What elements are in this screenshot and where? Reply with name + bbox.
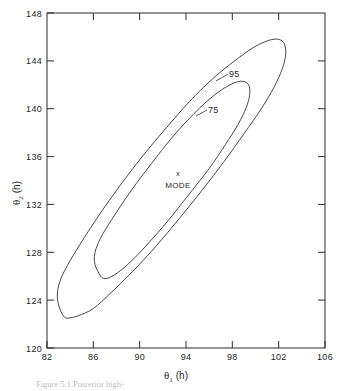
figure-caption-strip: Figure 5.1 Posterior high- [0, 381, 348, 391]
y-axis-ticks-right [318, 61, 325, 300]
y-axis-title-subscript: 2 [17, 196, 25, 200]
mode-marker-x: x [176, 170, 180, 177]
y-tick-label: 140 [26, 104, 42, 114]
x-tick-labels: 82 86 90 94 98 102 106 [42, 352, 333, 362]
y-tick-label: 144 [26, 56, 42, 66]
y-tick-labels: 120 124 128 132 136 140 144 148 [26, 9, 42, 354]
figure-container: 82 86 90 94 98 102 106 120 124 128 132 1… [0, 0, 348, 391]
y-tick-label: 124 [26, 296, 42, 306]
mode-annotation: x MODE [165, 170, 191, 190]
x-axis-title-unit: (h) [176, 370, 188, 381]
y-tick-label: 128 [26, 248, 42, 258]
x-tick-label: 94 [181, 352, 192, 362]
contour-label-95: 95 [229, 69, 239, 79]
contour-labels: 95 75 [208, 69, 239, 115]
x-tick-label: 106 [317, 352, 333, 362]
svg-text:θ2(h): θ2(h) [10, 181, 25, 205]
inner-contour [94, 81, 250, 279]
y-tick-label: 120 [26, 344, 42, 354]
figure-caption: Figure 5.1 Posterior high- [36, 381, 124, 389]
y-tick-label: 132 [26, 200, 42, 210]
contour-curves [57, 39, 285, 318]
x-tick-label: 82 [42, 352, 53, 362]
x-tick-label: 90 [134, 352, 145, 362]
x-tick-label: 98 [227, 352, 238, 362]
outer-contour [57, 39, 285, 318]
y-tick-label: 148 [26, 9, 42, 19]
y-axis-title: θ2(h) [10, 181, 25, 205]
x-tick-label: 102 [271, 352, 287, 362]
y-axis-ticks-left [47, 13, 54, 348]
x-tick-label: 86 [88, 352, 99, 362]
y-tick-label: 136 [26, 152, 42, 162]
x-axis-ticks-bottom [47, 341, 325, 348]
contour-label-75: 75 [208, 105, 218, 115]
mode-label: MODE [165, 181, 191, 190]
x-axis-ticks-top [93, 13, 278, 20]
leader-line-inner [196, 110, 207, 116]
leader-line-outer [216, 74, 228, 81]
y-axis-title-unit: (h) [11, 181, 22, 193]
contour-plot: 82 86 90 94 98 102 106 120 124 128 132 1… [0, 0, 348, 391]
